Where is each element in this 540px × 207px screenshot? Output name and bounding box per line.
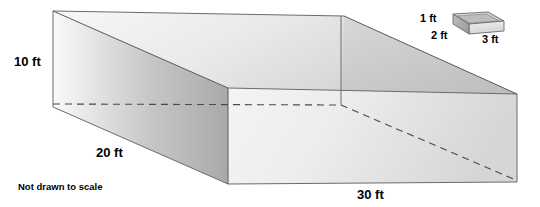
not-drawn-to-scale-note: Not drawn to scale	[18, 182, 102, 192]
label-small-length-3ft: 3 ft	[482, 34, 499, 45]
label-width-20ft: 20 ft	[96, 146, 123, 159]
label-small-width-2ft: 2 ft	[431, 30, 448, 41]
label-length-30ft: 30 ft	[357, 188, 384, 201]
label-small-height-1ft: 1 ft	[420, 13, 437, 24]
small-prism-group	[453, 12, 504, 34]
geometry-figure: 10 ft 20 ft 30 ft 1 ft 2 ft 3 ft Not dra…	[0, 0, 540, 207]
label-height-10ft: 10 ft	[14, 55, 41, 68]
prism-diagram-svg	[0, 0, 540, 207]
prism-front-face	[228, 88, 517, 184]
